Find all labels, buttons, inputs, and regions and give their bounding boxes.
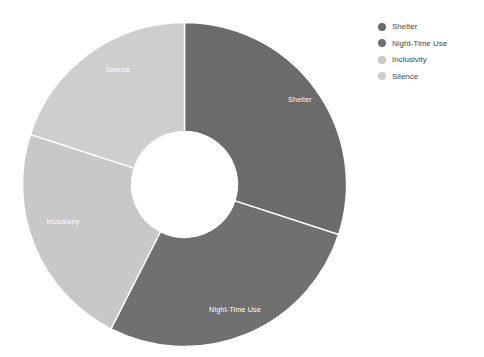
legend-item[interactable]: Silence [378, 71, 482, 82]
donut-chart: ShelterNight-Time UseInclusivitySilence [0, 0, 368, 357]
legend-swatch-icon [378, 23, 386, 31]
donut-slice-label: Shelter [288, 95, 312, 104]
legend-item-label: Inclusivity [392, 54, 427, 65]
donut-slice[interactable] [185, 23, 347, 235]
donut-slice-label: Inclusivity [47, 217, 80, 226]
legend-swatch-icon [378, 72, 386, 80]
donut-slice-label: Night-Time Use [209, 305, 261, 314]
legend-item[interactable]: Inclusivity [378, 54, 482, 65]
legend-swatch-icon [378, 56, 386, 64]
legend-item-label: Shelter [392, 21, 417, 32]
donut-slice-group [23, 23, 347, 347]
legend-item-label: Night-Time Use [392, 38, 447, 49]
donut-chart-svg: ShelterNight-Time UseInclusivitySilence [0, 0, 368, 357]
legend-item[interactable]: Night-Time Use [378, 38, 482, 49]
legend-item[interactable]: Shelter [378, 21, 482, 32]
legend-item-label: Silence [392, 71, 418, 82]
chart-legend: ShelterNight-Time UseInclusivitySilence [378, 21, 482, 82]
legend-swatch-icon [378, 39, 386, 47]
donut-slice-label: Silence [106, 65, 131, 74]
